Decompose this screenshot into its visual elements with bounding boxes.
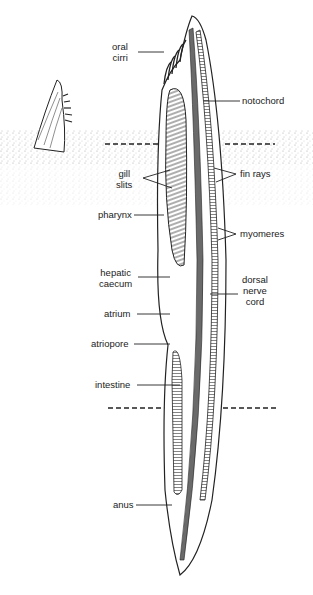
label-notochord: notochord bbox=[242, 95, 284, 106]
label-oral-cirri: oral cirri bbox=[112, 41, 128, 63]
label-intestine: intestine bbox=[95, 379, 130, 390]
label-hepatic-caecum: hepatic caecum bbox=[99, 267, 132, 289]
lancelet-body bbox=[158, 16, 227, 575]
label-atriopore: atriopore bbox=[91, 338, 129, 349]
label-gill-slits: gill slits bbox=[116, 168, 132, 190]
label-atrium: atrium bbox=[104, 308, 130, 319]
label-anus: anus bbox=[113, 499, 134, 510]
label-pharynx: pharynx bbox=[98, 209, 132, 220]
label-dorsal-nerve-cord: dorsal nerve cord bbox=[242, 274, 268, 307]
label-myomeres: myomeres bbox=[240, 228, 284, 239]
label-fin-rays: fin rays bbox=[240, 168, 271, 179]
